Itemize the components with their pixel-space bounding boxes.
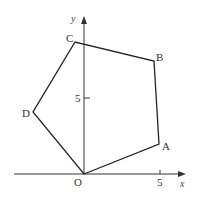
vertex-label-a: A [162, 140, 170, 152]
vertex-label-d: D [22, 107, 30, 119]
y-axis-label: y [70, 13, 76, 24]
pentagon-OABCD [33, 42, 159, 174]
pentagon-diagram: O A B C D 5 5 x y [0, 0, 197, 204]
y-axis-arrow-icon [81, 16, 87, 24]
vertex-label-o: O [74, 176, 82, 188]
x-axis-label: x [179, 178, 185, 189]
x-tick-label: 5 [157, 176, 163, 188]
x-axis-arrow-icon [178, 171, 186, 177]
vertex-label-b: B [156, 51, 163, 63]
y-tick-label: 5 [75, 92, 81, 104]
vertex-label-c: C [66, 32, 73, 44]
